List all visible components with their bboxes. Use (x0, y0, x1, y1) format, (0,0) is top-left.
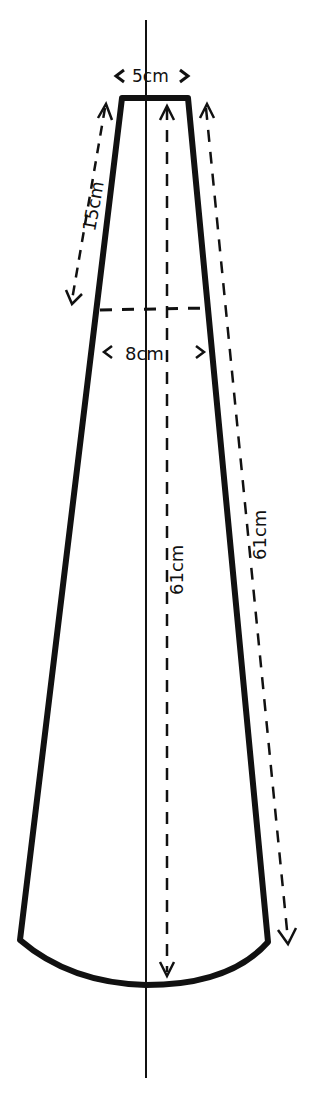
center-length-label: 61cm (166, 545, 187, 595)
arrowhead-icon (180, 70, 188, 82)
arrowhead-icon (116, 70, 124, 82)
mid-width-label: 8cm (125, 343, 164, 364)
top-width-label: 5cm (132, 66, 169, 86)
pattern-diagram: 5cm 8cm 15cm 61cm 61cm (0, 0, 314, 1099)
side-length-arrow (206, 108, 288, 940)
pattern-outline (20, 98, 268, 985)
side-length-label: 61cm (249, 510, 270, 560)
mid-width-dashed-line (100, 308, 208, 310)
arrowhead-icon (196, 346, 204, 358)
arrowhead-icon (104, 346, 112, 358)
arrowhead-icon (278, 928, 296, 944)
upper-length-label: 15cm (78, 179, 107, 232)
